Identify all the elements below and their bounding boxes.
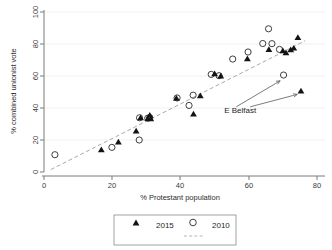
y-tick-label: 80 bbox=[31, 40, 40, 48]
annotation-label: E Belfast bbox=[224, 106, 257, 115]
y-axis-title: % combined unionist vote bbox=[9, 48, 18, 133]
y-tick-label: 40 bbox=[31, 104, 40, 112]
legend-label-2015: 2015 bbox=[156, 221, 174, 230]
x-tick-label: 40 bbox=[176, 181, 184, 190]
x-axis-title: % Protestant population bbox=[140, 193, 220, 202]
x-tick-label: 0 bbox=[42, 181, 46, 190]
legend-box bbox=[114, 215, 236, 245]
x-tick-label: 60 bbox=[245, 181, 253, 190]
x-tick-label: 80 bbox=[313, 181, 321, 190]
y-tick-label: 20 bbox=[31, 136, 40, 144]
y-tick-label: 0 bbox=[31, 170, 40, 174]
legend-label-2010: 2010 bbox=[212, 221, 230, 230]
chart-svg: 100 80 60 40 20 0 % combined unionist vo… bbox=[0, 0, 332, 250]
chart-legend: 2015 2010 bbox=[114, 215, 236, 245]
chart-background bbox=[0, 0, 332, 250]
x-tick-label: 20 bbox=[108, 181, 116, 190]
scatter-plot-figure: 100 80 60 40 20 0 % combined unionist vo… bbox=[0, 0, 332, 250]
y-tick-label: 100 bbox=[31, 6, 40, 19]
y-tick-label: 60 bbox=[31, 72, 40, 80]
